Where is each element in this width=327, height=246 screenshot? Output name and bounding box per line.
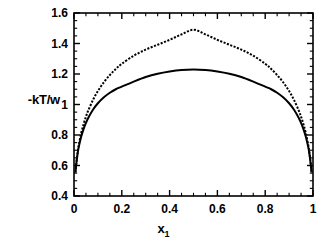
y-tick-label: 1.6 (34, 7, 68, 19)
x-axis-label-subscript: 1 (165, 229, 170, 239)
x-tick-label: 0.8 (245, 203, 285, 215)
x-axis-label-text: x (157, 221, 164, 236)
x-axis-label: x1 (0, 222, 327, 241)
y-tick-label: 1 (34, 99, 68, 111)
axes-frame (74, 13, 313, 196)
y-tick-label: 0.8 (34, 129, 68, 141)
x-tick-label: 0 (54, 203, 94, 215)
series-curve-binodal (75, 30, 311, 173)
x-tick-label: 0.6 (197, 203, 237, 215)
x-tick-label: 0.4 (150, 203, 190, 215)
y-tick-label: 0.4 (34, 190, 68, 202)
tick-marks (74, 13, 313, 196)
series-curve-spinodal (75, 69, 311, 172)
y-tick-label: 1.2 (34, 68, 68, 80)
x-tick-label: 1 (293, 203, 327, 215)
chart-figure: -kT/w x1 0.40.60.811.21.41.6 00.20.40.60… (0, 0, 327, 246)
y-tick-label: 1.4 (34, 38, 68, 50)
x-tick-label: 0.2 (102, 203, 142, 215)
data-series-layer (75, 30, 311, 173)
y-tick-label: 0.6 (34, 160, 68, 172)
